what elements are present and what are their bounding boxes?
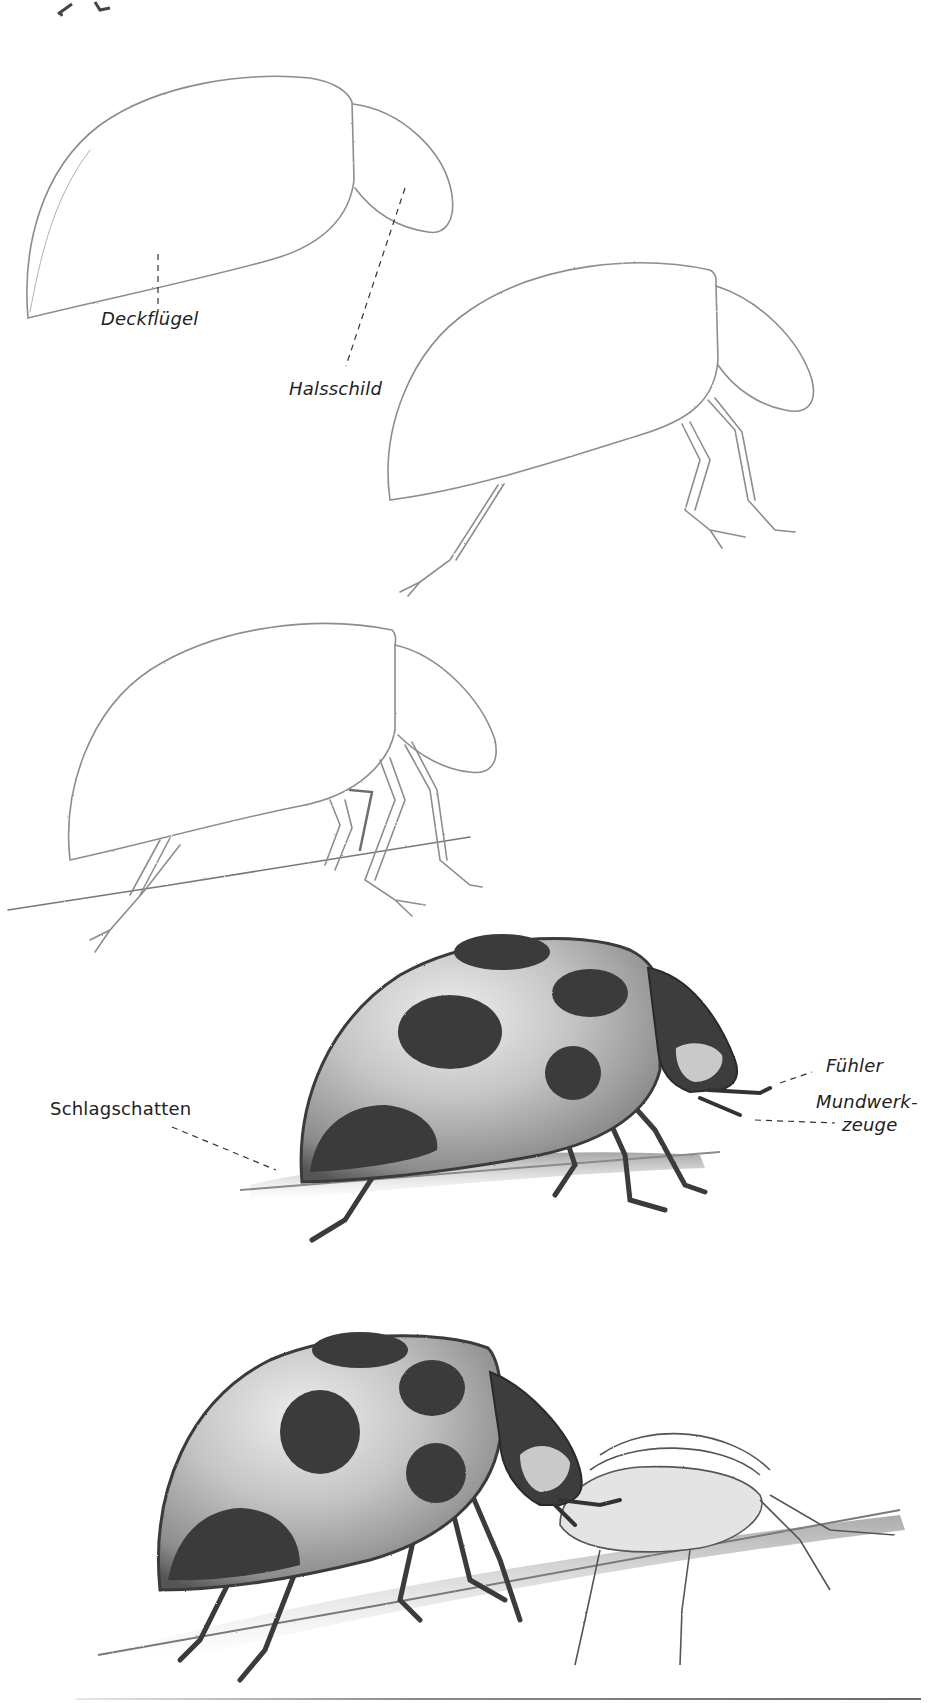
drawing-tutorial-page: Deckflügel Halsschild Fühler Mundwerk- z… [0, 0, 941, 1703]
step-3-outline [8, 623, 496, 952]
step-1-outline [27, 76, 453, 318]
illustration-canvas [0, 0, 941, 1703]
page-bottom-rule [76, 1698, 921, 1700]
label-fuehler: Fühler [826, 1055, 883, 1076]
label-halsschild: Halsschild [289, 378, 382, 399]
label-schlagschatten: Schlagschatten [50, 1098, 191, 1119]
sketch-fragment-top [58, 2, 110, 16]
label-mundwerkzeuge-line2: zeuge [842, 1114, 897, 1135]
step-4-shaded-ladybug [240, 934, 770, 1240]
step-5-ladybug-with-aphid [98, 1332, 905, 1680]
step-2-outline [388, 263, 813, 596]
step-1-leader-lines [158, 188, 405, 366]
label-mundwerkzeuge-line1: Mundwerk- [816, 1091, 918, 1112]
label-deckfluegel: Deckflügel [101, 308, 199, 329]
